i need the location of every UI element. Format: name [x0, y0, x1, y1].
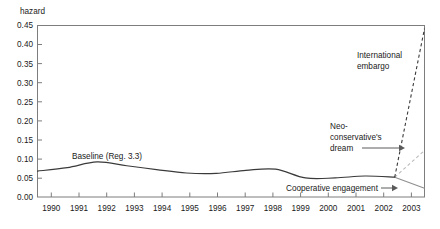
y-tick-label: 0.20 — [17, 117, 33, 126]
x-tick-label: 1991 — [70, 204, 89, 213]
series-cooperative-engagement — [395, 177, 425, 188]
chart-canvas: hazard 0.45 0.40 0.35 0.30 0.25 0.20 0.1… — [0, 0, 440, 229]
annotation-coop-label: Cooperative engagement — [286, 184, 379, 193]
x-tick-label: 1998 — [264, 204, 283, 213]
y-axis-ticks: 0.45 0.40 0.35 0.30 0.25 0.20 0.15 0.10 … — [17, 21, 42, 202]
y-tick-label: 0.25 — [17, 98, 33, 107]
y-tick-label: 0.00 — [17, 193, 33, 202]
annotation-neocon-line2: conservative's — [330, 133, 382, 142]
y-axis-title: hazard — [20, 7, 45, 16]
x-tick-label: 1990 — [42, 204, 61, 213]
y-tick-label: 0.35 — [17, 60, 33, 69]
annotation-coop-arrow-head — [392, 185, 398, 191]
x-tick-label: 2001 — [347, 204, 366, 213]
annotation-embargo-line1: International — [357, 51, 402, 60]
annotation-international-embargo: International embargo — [357, 51, 402, 71]
annotation-embargo-line2: embargo — [357, 62, 390, 71]
x-axis-tickmarks — [51, 193, 411, 198]
y-tick-label: 0.40 — [17, 40, 33, 49]
series-baseline — [38, 162, 395, 179]
x-tick-label: 1993 — [125, 204, 144, 213]
x-tick-label: 2003 — [402, 204, 421, 213]
annotation-neocon-line1: Neo- — [330, 122, 348, 131]
y-tick-label: 0.10 — [17, 155, 33, 164]
x-tick-label: 1999 — [291, 204, 310, 213]
y-tick-label: 0.45 — [17, 21, 33, 30]
hazard-scenario-chart: hazard 0.45 0.40 0.35 0.30 0.25 0.20 0.1… — [0, 0, 440, 229]
x-tick-label: 1992 — [98, 204, 117, 213]
x-tick-label: 1996 — [208, 204, 227, 213]
annotation-baseline-label: Baseline (Reg. 3.3) — [72, 152, 142, 161]
annotation-neocon-arrow-head — [399, 145, 405, 151]
annotation-cooperative-engagement: Cooperative engagement — [286, 184, 398, 193]
x-tick-label: 2000 — [319, 204, 338, 213]
x-tick-label: 2002 — [375, 204, 394, 213]
annotation-neocon-line3: dream — [330, 144, 353, 153]
x-tick-label: 1995 — [181, 204, 200, 213]
series-neoconservatives-dream — [395, 151, 425, 178]
y-tick-label: 0.30 — [17, 79, 33, 88]
x-tick-label: 1997 — [236, 204, 255, 213]
x-axis-labels: 1990 1991 1992 1993 1994 1995 1996 1997 … — [42, 204, 421, 213]
y-tick-label: 0.15 — [17, 136, 33, 145]
annotation-neoconservatives-dream: Neo- conservative's dream — [330, 122, 405, 153]
y-tick-label: 0.05 — [17, 174, 33, 183]
x-tick-label: 1994 — [153, 204, 172, 213]
